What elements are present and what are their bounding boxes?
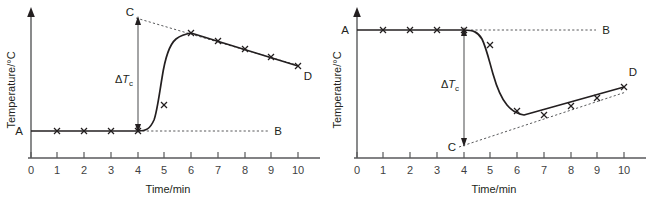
x-tick-label: 1: [54, 164, 60, 176]
x-tick-label: 2: [407, 164, 413, 176]
point-label-a: A: [15, 125, 23, 137]
x-tick-label: 5: [487, 164, 493, 176]
delta-t-subscript: c: [455, 84, 459, 93]
x-tick-label: 2: [81, 164, 87, 176]
x-tick-label: 9: [594, 164, 600, 176]
delta-t-arrow: [135, 16, 141, 133]
delta-t-arrow: [461, 27, 467, 147]
x-axis: [28, 152, 320, 158]
x-tick-label: 3: [108, 164, 114, 176]
data-point-marker: [568, 103, 574, 109]
point-label-d: D: [629, 66, 637, 78]
delta-t-label: ΔTc: [441, 78, 459, 93]
extrapolation-dashed: [459, 92, 626, 147]
data-point-marker: [161, 102, 167, 108]
x-tick-label: 8: [568, 164, 574, 176]
x-tick-label: 8: [242, 164, 248, 176]
x-tick-label: 7: [215, 164, 221, 176]
point-label-b: B: [274, 125, 282, 137]
point-label-b: B: [602, 24, 610, 36]
right-chart-svg: 0 1 2 3 4 5 6 7 8 9 10 Time/min Temperat…: [326, 0, 652, 200]
right-chart: 0 1 2 3 4 5 6 7 8 9 10 Time/min Temperat…: [326, 0, 652, 200]
x-tick-label: 5: [161, 164, 167, 176]
x-tick-label: 4: [461, 164, 467, 176]
temperature-time-figure: 0 1 2 3 4 5 6 7 8 9 10 Time/min Temperat…: [0, 0, 652, 200]
x-tick-labels: 0 1 2 3 4 5 6 7 8 9 10: [28, 164, 304, 176]
x-tick-label: 1: [380, 164, 386, 176]
x-tick-label: 9: [268, 164, 274, 176]
y-axis-title: Temperature/°C: [5, 51, 17, 128]
point-label-d: D: [304, 70, 312, 82]
point-label-c: C: [448, 141, 456, 153]
x-axis-title: Time/min: [472, 183, 517, 195]
y-axis: [27, 7, 35, 158]
left-chart: 0 1 2 3 4 5 6 7 8 9 10 Time/min Temperat…: [0, 0, 326, 200]
delta-t-label: ΔTc: [115, 73, 133, 88]
x-tick-labels: 0 1 2 3 4 5 6 7 8 9 10: [354, 164, 630, 176]
measured-curve: [138, 33, 298, 131]
x-tick-label: 0: [354, 164, 360, 176]
data-point-marker: [541, 112, 547, 118]
x-tick-label: 10: [618, 164, 630, 176]
left-chart-svg: 0 1 2 3 4 5 6 7 8 9 10 Time/min Temperat…: [0, 0, 326, 200]
x-tick-label: 10: [292, 164, 304, 176]
data-point-markers: [54, 30, 301, 134]
x-tick-label: 6: [514, 164, 520, 176]
delta-t-subscript: c: [129, 79, 133, 88]
x-axis: [354, 152, 646, 158]
data-point-marker: [487, 42, 493, 48]
x-tick-label: 7: [541, 164, 547, 176]
x-tick-label: 3: [434, 164, 440, 176]
x-tick-label: 0: [28, 164, 34, 176]
x-tick-label: 4: [135, 164, 141, 176]
point-label-a: A: [341, 24, 349, 36]
data-point-marker: [594, 95, 600, 101]
y-axis-title: Temperature/°C: [331, 51, 343, 128]
point-label-c: C: [126, 6, 134, 18]
x-axis-title: Time/min: [146, 183, 191, 195]
x-tick-label: 6: [188, 164, 194, 176]
